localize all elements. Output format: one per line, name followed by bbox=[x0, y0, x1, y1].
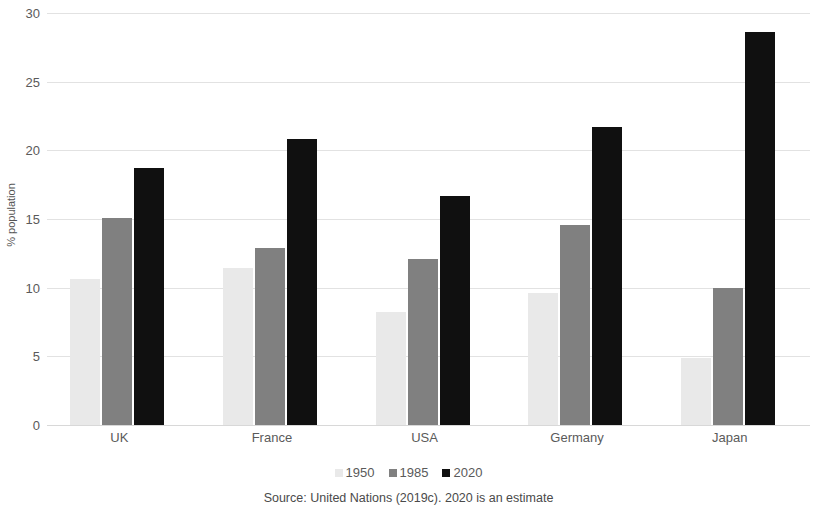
bar bbox=[560, 225, 590, 426]
x-axis-category-label: Japan bbox=[670, 430, 790, 445]
bar bbox=[102, 218, 132, 425]
x-axis-category-labels: UKFranceUSAGermanyJapan bbox=[47, 430, 810, 450]
bar bbox=[134, 168, 164, 425]
x-axis-category-label: USA bbox=[365, 430, 485, 445]
chart-legend: 195019852020 bbox=[0, 465, 817, 480]
legend-swatch-icon bbox=[335, 469, 343, 477]
legend-swatch-icon bbox=[389, 469, 397, 477]
bar-group bbox=[376, 13, 470, 425]
y-axis-tick-label: 10 bbox=[0, 280, 40, 295]
legend-item: 1950 bbox=[335, 465, 375, 480]
legend-label: 1985 bbox=[400, 465, 429, 480]
bar-group bbox=[528, 13, 622, 425]
x-axis-category-label: France bbox=[212, 430, 332, 445]
legend-swatch-icon bbox=[442, 469, 450, 477]
legend-item: 1985 bbox=[389, 465, 429, 480]
bar bbox=[255, 248, 285, 425]
y-axis-tick-labels: 051015202530 bbox=[0, 13, 40, 425]
legend-label: 1950 bbox=[346, 465, 375, 480]
y-axis-tick-label: 30 bbox=[0, 6, 40, 21]
bar bbox=[528, 293, 558, 425]
bar-group bbox=[223, 13, 317, 425]
bar-group bbox=[70, 13, 164, 425]
bar bbox=[681, 358, 711, 425]
bar bbox=[592, 127, 622, 425]
bar bbox=[440, 196, 470, 425]
gridline bbox=[47, 425, 810, 426]
source-note: Source: United Nations (2019c). 2020 is … bbox=[0, 491, 817, 505]
bar bbox=[745, 32, 775, 425]
y-axis-tick-label: 20 bbox=[0, 143, 40, 158]
bar bbox=[376, 312, 406, 425]
bar-chart: % population 051015202530 UKFranceUSAGer… bbox=[0, 0, 817, 519]
y-axis-tick-label: 25 bbox=[0, 74, 40, 89]
legend-item: 2020 bbox=[442, 465, 482, 480]
bar bbox=[287, 139, 317, 425]
y-axis-tick-label: 15 bbox=[0, 212, 40, 227]
x-axis-category-label: Germany bbox=[517, 430, 637, 445]
y-axis-tick-label: 0 bbox=[0, 418, 40, 433]
bar-group bbox=[681, 13, 775, 425]
bar bbox=[223, 268, 253, 425]
bar bbox=[408, 259, 438, 425]
plot-area bbox=[47, 13, 810, 425]
bar bbox=[70, 279, 100, 425]
legend-label: 2020 bbox=[453, 465, 482, 480]
bar bbox=[713, 288, 743, 425]
y-axis-tick-label: 5 bbox=[0, 349, 40, 364]
x-axis-category-label: UK bbox=[59, 430, 179, 445]
